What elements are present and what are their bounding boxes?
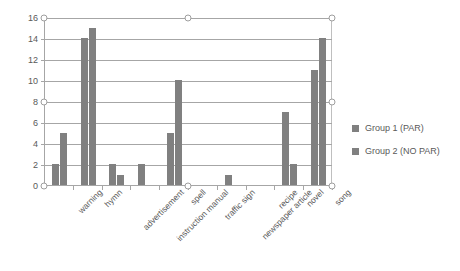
legend-label: Group 2 (NO PAR): [365, 147, 440, 156]
selection-handle[interactable]: [329, 15, 336, 22]
bar-chart: 0246810121416 warninghymnadvertisementin…: [0, 0, 460, 271]
x-axis-tick-label: hymn: [103, 188, 124, 209]
bar-group[interactable]: [45, 18, 74, 185]
bar[interactable]: [138, 164, 145, 185]
bar-group[interactable]: [131, 18, 160, 185]
bar[interactable]: [225, 175, 232, 186]
legend-item-group-2[interactable]: Group 2 (NO PAR): [352, 147, 440, 156]
y-axis-tick-label: 14: [28, 35, 38, 44]
legend-swatch-icon: [352, 125, 359, 132]
bar-group[interactable]: [160, 18, 189, 185]
chart-legend: Group 1 (PAR) Group 2 (NO PAR): [352, 124, 440, 156]
bar[interactable]: [89, 28, 96, 186]
bar[interactable]: [52, 164, 59, 185]
bar[interactable]: [81, 38, 88, 185]
x-axis-tick-label: warning: [77, 188, 104, 215]
y-axis-tick-label: 8: [33, 98, 38, 107]
bar[interactable]: [175, 80, 182, 185]
bar[interactable]: [117, 175, 124, 186]
bar-group[interactable]: [275, 18, 304, 185]
legend-label: Group 1 (PAR): [365, 124, 424, 133]
x-axis-tick-label: song: [333, 188, 352, 207]
legend-item-group-1[interactable]: Group 1 (PAR): [352, 124, 440, 133]
bar[interactable]: [109, 164, 116, 185]
bar[interactable]: [282, 112, 289, 186]
y-axis-tick-label: 12: [28, 56, 38, 65]
y-axis-tick-label: 6: [33, 119, 38, 128]
x-axis-tick-label: advertisement: [142, 188, 186, 232]
bar-group[interactable]: [103, 18, 132, 185]
y-axis-tick-label: 4: [33, 140, 38, 149]
selection-handle[interactable]: [41, 99, 48, 106]
bars-layer: [45, 18, 331, 185]
bar[interactable]: [60, 133, 67, 186]
bar-group[interactable]: [189, 18, 218, 185]
bar[interactable]: [319, 38, 326, 185]
bar[interactable]: [311, 70, 318, 186]
bar-group[interactable]: [218, 18, 247, 185]
selection-handle[interactable]: [185, 15, 192, 22]
bar-group[interactable]: [247, 18, 276, 185]
selection-handle[interactable]: [41, 15, 48, 22]
bar[interactable]: [290, 164, 297, 185]
x-axis-labels: warninghymnadvertisementinstruction manu…: [44, 188, 332, 268]
selection-handle[interactable]: [329, 99, 336, 106]
y-axis-tick-label: 10: [28, 77, 38, 86]
y-axis-tick-label: 2: [33, 161, 38, 170]
legend-swatch-icon: [352, 148, 359, 155]
plot-area: 0246810121416: [44, 18, 332, 186]
y-axis-tick-label: 16: [28, 14, 38, 23]
y-axis-tick-label: 0: [33, 182, 38, 191]
bar-group[interactable]: [74, 18, 103, 185]
bar[interactable]: [167, 133, 174, 186]
